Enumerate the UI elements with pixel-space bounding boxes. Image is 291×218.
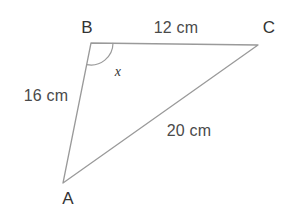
- vertex-label-a: A: [62, 190, 74, 207]
- angle-label-x: x: [115, 65, 121, 79]
- side-label-ab: 16 cm: [24, 88, 69, 104]
- triangle-diagram: B C A 12 cm 16 cm 20 cm x: [0, 0, 291, 218]
- vertex-label-b: B: [81, 19, 93, 36]
- triangle-figure: [0, 0, 291, 218]
- vertex-label-c: C: [263, 19, 275, 36]
- side-label-bc: 12 cm: [154, 20, 199, 36]
- side-label-ac: 20 cm: [167, 123, 212, 139]
- triangle-outline: [63, 43, 258, 183]
